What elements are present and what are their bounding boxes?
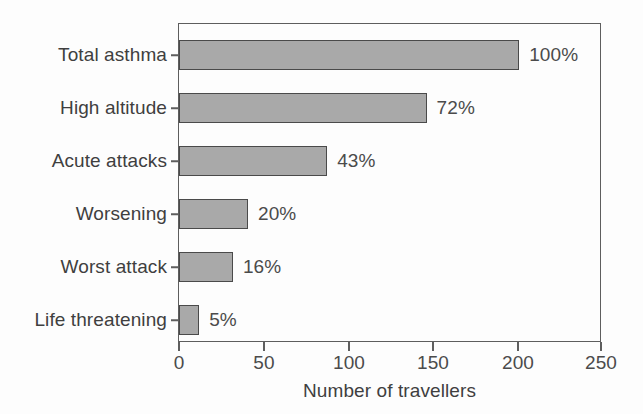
- x-axis-title: Number of travellers: [178, 380, 601, 402]
- x-axis-ticklabel-4: 200: [502, 352, 534, 374]
- bar-acute-attacks: [179, 146, 327, 176]
- y-axis-label-worst-attack: Worst attack: [61, 256, 167, 278]
- bar-total-asthma: [179, 40, 519, 70]
- x-axis-ticklabel-3: 150: [417, 352, 449, 374]
- x-axis-tick-1: [263, 342, 265, 351]
- x-axis-ticklabel-0: 0: [174, 352, 185, 374]
- x-axis-ticklabel-1: 50: [253, 352, 274, 374]
- bar-worsening: [179, 199, 248, 229]
- bar-value-label-life-threatening: 5%: [209, 309, 237, 331]
- y-axis-label-total-asthma: Total asthma: [58, 44, 167, 66]
- x-axis-ticklabel-5: 250: [585, 352, 617, 374]
- x-axis-tick-4: [517, 342, 519, 351]
- bar-life-threatening: [179, 305, 199, 335]
- y-axis-label-life-threatening: Life threatening: [34, 309, 167, 331]
- bar-chart: Total asthma High altitude Acute attacks…: [0, 0, 643, 414]
- x-axis-tick-5: [600, 342, 602, 351]
- plot-area: [178, 23, 601, 342]
- x-axis-tick-2: [348, 342, 350, 351]
- y-axis-label-acute-attacks: Acute attacks: [52, 150, 167, 172]
- y-axis-label-worsening: Worsening: [76, 203, 167, 225]
- x-axis-ticklabel-2: 100: [333, 352, 365, 374]
- bar-value-label-worst-attack: 16%: [243, 256, 281, 278]
- x-axis-tick-3: [432, 342, 434, 351]
- x-axis-ticks: [0, 342, 643, 354]
- y-axis-label-high-altitude: High altitude: [60, 97, 167, 119]
- bar-value-label-total-asthma: 100%: [529, 44, 578, 66]
- bar-high-altitude: [179, 93, 427, 123]
- x-axis-tick-0: [178, 342, 180, 351]
- bar-worst-attack: [179, 252, 233, 282]
- bar-value-label-acute-attacks: 43%: [337, 150, 375, 172]
- bar-value-label-worsening: 20%: [258, 203, 296, 225]
- bar-value-label-high-altitude: 72%: [437, 97, 475, 119]
